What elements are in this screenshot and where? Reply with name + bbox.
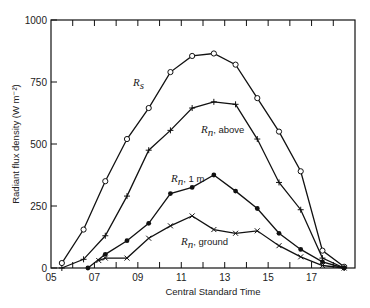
y-axis-title: Radiant flux density (W m⁻²) bbox=[10, 84, 21, 204]
filled-circle-marker bbox=[125, 238, 130, 243]
x-tick-label: 07 bbox=[89, 272, 101, 283]
filled-circle-marker bbox=[277, 231, 282, 236]
filled-circle-marker bbox=[211, 173, 216, 178]
filled-circle-marker bbox=[190, 185, 195, 190]
y-tick-label: 1000 bbox=[25, 15, 48, 26]
filled-circle-marker bbox=[86, 266, 91, 271]
label-rn-above: Rn, above bbox=[200, 123, 244, 138]
x-marker bbox=[190, 213, 195, 218]
x-tick-label: 17 bbox=[306, 272, 318, 283]
open-circle-marker bbox=[233, 62, 238, 67]
open-circle-marker bbox=[59, 260, 64, 265]
filled-circle-marker bbox=[233, 189, 238, 194]
open-circle-marker bbox=[124, 136, 129, 141]
plus-marker bbox=[59, 265, 65, 271]
open-circle-marker bbox=[103, 179, 108, 184]
label-rs: Rs bbox=[132, 76, 144, 91]
filled-circle-marker bbox=[146, 221, 151, 226]
plus-marker bbox=[254, 136, 260, 142]
y-tick-label: 500 bbox=[30, 139, 47, 150]
y-tick-label: 750 bbox=[30, 77, 47, 88]
open-circle-marker bbox=[190, 53, 195, 58]
label-rn-1m: Rn, 1 m bbox=[170, 172, 204, 187]
plus-marker bbox=[211, 99, 217, 105]
filled-circle-marker bbox=[168, 191, 173, 196]
open-circle-marker bbox=[255, 96, 260, 101]
x-marker bbox=[277, 243, 282, 248]
x-tick-label: 09 bbox=[132, 272, 144, 283]
x-tick-label: 15 bbox=[263, 272, 275, 283]
open-circle-marker bbox=[81, 227, 86, 232]
x-tick-label: 13 bbox=[219, 272, 231, 283]
radiant-flux-chart: 0507091113151702505007501000Central Stan… bbox=[0, 0, 370, 308]
label-rn-ground: Rn, ground bbox=[180, 235, 228, 250]
y-tick-label: 0 bbox=[41, 263, 47, 274]
open-circle-marker bbox=[276, 129, 281, 134]
open-circle-marker bbox=[168, 69, 173, 74]
x-axis-title: Central Standard Time bbox=[165, 286, 260, 297]
plus-marker bbox=[124, 193, 130, 199]
open-circle-marker bbox=[298, 169, 303, 174]
x-tick-label: 11 bbox=[176, 272, 187, 283]
plus-marker bbox=[233, 101, 239, 107]
filled-circle-marker bbox=[298, 247, 303, 252]
x-marker bbox=[146, 236, 151, 241]
filled-circle-marker bbox=[255, 206, 260, 211]
x-tick-label: 05 bbox=[45, 272, 57, 283]
x-marker bbox=[168, 223, 173, 228]
y-tick-label: 250 bbox=[30, 201, 47, 212]
plot-frame bbox=[51, 20, 355, 268]
open-circle-marker bbox=[146, 105, 151, 110]
open-circle-marker bbox=[211, 51, 216, 56]
